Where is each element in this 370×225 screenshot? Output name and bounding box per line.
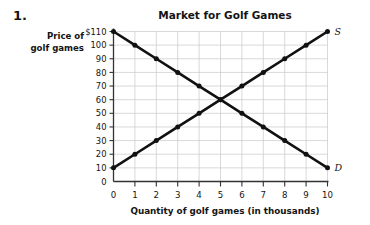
y-axis-tick-label: 80 — [96, 68, 107, 78]
economics-supply-demand-figure: 1. Market for Golf Games Price of golf g… — [0, 0, 370, 225]
data-point-marker — [261, 70, 266, 75]
data-point-marker — [175, 70, 180, 75]
y-axis-tick-label: 90 — [96, 54, 107, 64]
curve-label-d: D — [334, 162, 343, 173]
data-point-marker — [304, 43, 309, 48]
data-point-marker — [239, 111, 244, 116]
y-axis-tick-label: 40 — [96, 122, 107, 132]
curve-end-labels: DS — [334, 26, 343, 173]
data-point-marker — [218, 97, 223, 102]
data-point-marker — [239, 84, 244, 89]
data-point-marker — [154, 56, 159, 61]
curve-label-s: S — [335, 26, 342, 37]
y-axis-tick-label: 50 — [96, 108, 107, 118]
data-point-marker — [197, 111, 202, 116]
data-point-marker — [282, 138, 287, 143]
y-axis-tick-label: 60 — [96, 95, 107, 105]
y-axis-tick-label: 10 — [96, 163, 107, 173]
x-axis-tick-label: 7 — [261, 190, 266, 200]
chart-plot-area: $1101009080706050403020100 012345678910 … — [0, 0, 370, 225]
x-axis-ticks — [135, 182, 328, 187]
data-point-marker — [111, 165, 116, 170]
x-axis-tick-labels: 012345678910 — [111, 190, 333, 200]
x-axis-tick-label: 0 — [111, 190, 116, 200]
data-point-marker — [282, 56, 287, 61]
x-axis-tick-label: 2 — [154, 190, 159, 200]
data-point-marker — [304, 152, 309, 157]
y-axis-tick-label: 30 — [96, 136, 107, 146]
y-axis-tick-label: $110 — [85, 27, 106, 37]
x-axis-tick-label: 8 — [282, 190, 287, 200]
y-axis-tick-label: 20 — [96, 149, 107, 159]
y-axis-tick-label: 100 — [91, 40, 107, 50]
data-point-marker — [261, 124, 266, 129]
x-axis-tick-label: 9 — [303, 190, 308, 200]
data-point-marker — [132, 152, 137, 157]
data-point-marker — [325, 165, 330, 170]
data-point-marker — [154, 138, 159, 143]
x-axis-tick-label: 3 — [175, 190, 180, 200]
data-point-marker — [111, 29, 116, 34]
data-point-marker — [197, 84, 202, 89]
y-axis-tick-label: 0 — [101, 177, 106, 187]
x-axis-tick-label: 1 — [132, 190, 137, 200]
data-point-marker — [175, 124, 180, 129]
y-axis-tick-label: 70 — [96, 81, 107, 91]
x-axis-tick-label: 6 — [239, 190, 244, 200]
x-axis-tick-label: 10 — [322, 190, 333, 200]
x-axis-tick-label: 4 — [196, 190, 201, 200]
x-axis-tick-label: 5 — [218, 190, 223, 200]
data-point-marker — [325, 29, 330, 34]
data-point-marker — [132, 43, 137, 48]
y-axis-tick-labels: $1101009080706050403020100 — [85, 27, 106, 187]
